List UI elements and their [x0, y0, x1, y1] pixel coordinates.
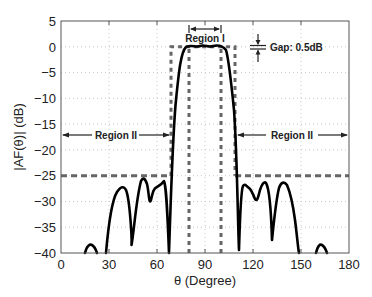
svg-text:30: 30 — [102, 257, 116, 272]
svg-text:−20: −20 — [34, 143, 56, 158]
x-tick-labels: 0 30 60 90 120 150 180 — [57, 257, 359, 272]
y-tick-labels: 5 0 −5 −10 −15 −20 −25 −30 −35 −40 — [34, 14, 56, 261]
svg-text:0: 0 — [49, 40, 56, 55]
x-axis-label: θ (Degree) — [174, 273, 236, 288]
svg-text:60: 60 — [150, 257, 164, 272]
region-2-right-label: Region II — [271, 130, 313, 141]
svg-text:−5: −5 — [41, 65, 56, 80]
gap-label: Gap: 0.5dB — [270, 42, 323, 53]
svg-text:−15: −15 — [34, 117, 56, 132]
chart: 5 0 −5 −10 −15 −20 −25 −30 −35 −40 0 30 … — [0, 0, 372, 297]
svg-text:5: 5 — [49, 14, 56, 29]
svg-text:90: 90 — [198, 257, 212, 272]
svg-text:−25: −25 — [34, 168, 56, 183]
y-axis-label: |AF(θ)| (dB) — [11, 103, 26, 170]
svg-text:150: 150 — [290, 257, 312, 272]
svg-text:120: 120 — [242, 257, 264, 272]
svg-text:180: 180 — [338, 257, 360, 272]
region-2-left-label: Region II — [95, 130, 137, 141]
svg-text:−30: −30 — [34, 194, 56, 209]
region-1-label: Region I — [185, 33, 225, 44]
svg-text:0: 0 — [57, 257, 64, 272]
svg-text:−40: −40 — [34, 246, 56, 261]
svg-text:−10: −10 — [34, 91, 56, 106]
svg-text:−35: −35 — [34, 220, 56, 235]
